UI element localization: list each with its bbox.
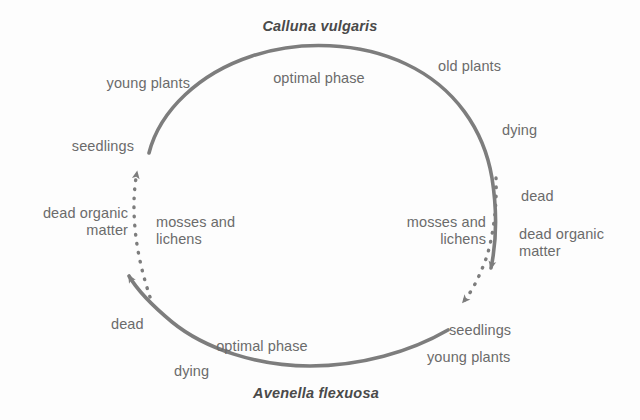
avenella-dead-label: dead [111, 316, 201, 333]
avenella-mosses-lichens-label: mosses and lichens [156, 214, 276, 248]
calluna-mosses-lichens-label: mosses and lichens [370, 214, 486, 248]
avenella-dying-label: dying [174, 363, 264, 380]
calluna-regeneration-dotted-arc [134, 172, 150, 297]
succession-cycle-diagram: Calluna vulgaris optimal phase young pla… [0, 0, 640, 420]
avenella-young-plants-label: young plants [427, 349, 567, 366]
avenella-seedlings-label: seedlings [449, 322, 569, 339]
calluna-dying-label: dying [502, 122, 592, 139]
calluna-dead-label: dead [521, 188, 611, 205]
calluna-seedlings-label: seedlings [20, 138, 134, 155]
calluna-dead-organic-matter-label: dead organic matter [519, 226, 639, 260]
avenella-optimal-phase-label: optimal phase [182, 338, 342, 355]
calluna-old-plants-label: old plants [438, 58, 568, 75]
species-label-calluna: Calluna vulgaris [225, 18, 415, 34]
avenella-dead-organic-matter-label: dead organic matter [8, 205, 128, 239]
calluna-optimal-phase-label: optimal phase [244, 70, 394, 87]
species-label-avenella: Avenella flexuosa [216, 385, 416, 401]
calluna-young-plants-label: young plants [60, 75, 190, 92]
